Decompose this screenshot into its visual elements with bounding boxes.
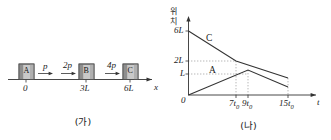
x-tick-9t0-sub: 0 xyxy=(249,103,252,110)
x-tick-label-0: 0 xyxy=(23,84,28,93)
momentum-arrow-p xyxy=(38,72,53,75)
caption-na: (나) xyxy=(166,118,331,132)
curve-c xyxy=(189,31,289,78)
t-axis-name: t xyxy=(317,97,320,107)
block-label-c: C xyxy=(128,67,133,75)
chart-guidelines xyxy=(188,61,288,95)
y-tick-label-6l: 6L xyxy=(174,26,184,35)
chart-axes xyxy=(186,16,316,97)
y-axis-label-korean: 위 치 xyxy=(168,7,179,26)
momentum-arrow-4p xyxy=(105,72,120,75)
x-tick-label-3l: 3L xyxy=(80,84,90,93)
x-tick-label-6l: 6L xyxy=(124,84,134,93)
panel-position-time-graph: 위 치 6L 2L L 0 7t0 9t0 15t0 t C A (나) xyxy=(166,0,331,140)
origin-label-0: 0 xyxy=(181,96,186,105)
x-tick-15t0-sub: 0 xyxy=(291,103,294,110)
x-tick-label-7t0: 7t0 xyxy=(229,99,239,110)
x-axis-name: x xyxy=(154,82,158,92)
block-label-a: A xyxy=(24,67,30,75)
momentum-label-p: p xyxy=(43,62,48,71)
x-tick-7t0-sub: 0 xyxy=(236,103,239,110)
panel-blocks-diagram: A B C p 2p 4p 0 3L 6L x (가) xyxy=(0,0,166,140)
x-tick-7t0-base: 7t xyxy=(229,98,236,108)
caption-ga: (가) xyxy=(0,114,166,128)
physics-figure: A B C p 2p 4p 0 3L 6L x (가) xyxy=(0,0,331,140)
x-tick-9t0-base: 9t xyxy=(242,98,249,108)
curve-label-c: C xyxy=(206,34,212,44)
momentum-label-2p: 2p xyxy=(63,61,72,70)
block-label-b: B xyxy=(84,67,89,75)
x-tick-label-9t0: 9t0 xyxy=(242,99,252,110)
y-tick-label-2l: 2L xyxy=(174,56,184,65)
momentum-arrow-2p xyxy=(61,72,76,75)
momentum-label-4p: 4p xyxy=(107,61,116,70)
curve-label-a: A xyxy=(209,66,216,76)
x-tick-15t0-base: 15t xyxy=(279,98,291,108)
x-tick-label-15t0: 15t0 xyxy=(279,99,294,110)
y-tick-label-l: L xyxy=(180,69,185,78)
y-axis-label-char-1: 위 xyxy=(168,7,179,17)
